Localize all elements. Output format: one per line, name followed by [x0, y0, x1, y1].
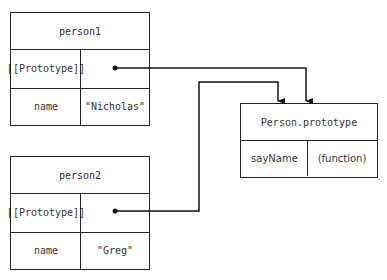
- person2-prototype-arrow: [113, 82, 279, 214]
- person1-prototype-arrow: [113, 66, 307, 102]
- prototype-link-arrows: [0, 0, 387, 280]
